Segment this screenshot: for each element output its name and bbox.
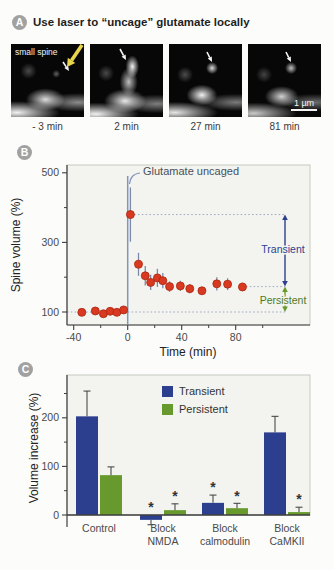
svg-text:40: 40	[176, 331, 188, 343]
svg-text:0: 0	[53, 509, 59, 521]
persistent-range-label: Persistent	[260, 294, 307, 306]
y-axis-label: Volume increase (%)	[27, 393, 41, 504]
significance-star: *	[148, 499, 154, 515]
scale-bar-label: 1 µm	[294, 98, 314, 108]
scale-bar-line	[291, 109, 317, 111]
micrograph-frame-1: small spine - 3 min	[11, 44, 84, 132]
legend-label-persistent: Persistent	[179, 403, 228, 415]
micrograph-strip: small spine - 3 min 2 min 27 min 1 µm	[11, 44, 321, 132]
svg-text:300: 300	[41, 236, 59, 248]
frame-1-arrows	[11, 44, 84, 117]
yellow-uncage-arrow	[67, 45, 82, 67]
micrograph-image-2	[90, 44, 163, 117]
figure: A Use laser to “uncage” glutamate locall…	[0, 0, 334, 570]
micrograph-frame-4: 1 µm 81 min	[248, 44, 321, 132]
significance-star: *	[210, 479, 216, 495]
x-axis-label: Time (min)	[160, 345, 217, 359]
glutamate-uncaged-annotation: Glutamate uncaged	[143, 165, 239, 177]
y-axis-label: Spine volume (%)	[9, 198, 23, 293]
time-label-2: 2 min	[114, 121, 138, 132]
time-label-3: 27 min	[190, 121, 220, 132]
scale-bar: 1 µm	[291, 98, 317, 111]
category-label: BlockNMDA	[148, 522, 179, 547]
time-label-4: 81 min	[269, 121, 299, 132]
svg-text:100: 100	[41, 460, 59, 472]
volume-increase-chart: *****0100200TransientPersistentControlBl…	[0, 360, 334, 570]
svg-text:100: 100	[41, 306, 59, 318]
transient-range-label: Transient	[261, 243, 304, 255]
significance-star: *	[172, 488, 178, 504]
micrograph-frame-3: 27 min	[169, 44, 242, 132]
spine-volume-chart: Glutamate uncagedTransientPersistent1003…	[0, 138, 334, 360]
frame-3-arrows	[169, 44, 242, 117]
panel-a-badge: A	[12, 15, 27, 30]
svg-text:-40: -40	[66, 331, 81, 343]
category-label: Blockcalmodulin	[200, 522, 250, 547]
time-label-1: - 3 min	[32, 121, 63, 132]
category-label: Control	[82, 522, 116, 534]
significance-star: *	[234, 488, 240, 504]
micrograph-image-4: 1 µm	[248, 44, 321, 117]
micrograph-image-3	[169, 44, 242, 117]
legend-label-transient: Transient	[179, 385, 224, 397]
panel-a-title: Use laser to “uncage” glutamate locally	[33, 15, 329, 30]
category-label: BlockCaMKII	[269, 522, 304, 547]
micrograph-frame-2: 2 min	[90, 44, 163, 132]
svg-text:80: 80	[230, 331, 242, 343]
svg-text:500: 500	[41, 166, 59, 178]
micrograph-image-1: small spine	[11, 44, 84, 117]
svg-text:0: 0	[125, 331, 131, 343]
significance-star: *	[296, 491, 302, 507]
svg-text:200: 200	[41, 411, 59, 423]
frame-2-arrows	[90, 44, 163, 117]
